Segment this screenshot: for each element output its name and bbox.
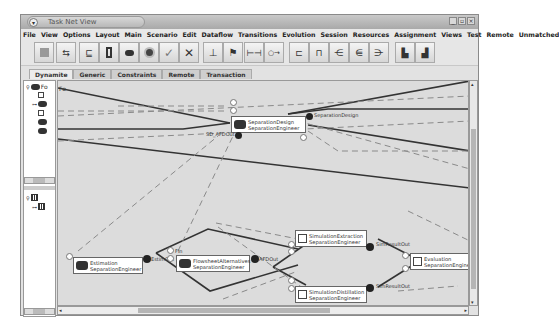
tree-item[interactable] (38, 110, 44, 116)
menu-file[interactable]: File (23, 31, 36, 38)
fanout-icon: ⋺ (375, 48, 384, 58)
export-button[interactable]: ▙ (395, 42, 415, 63)
node-evaluation[interactable]: Evaluation SeparationEngineer (410, 253, 469, 270)
tab-constraints[interactable]: Constraints (111, 69, 162, 79)
document-icon (106, 47, 112, 58)
canvas-vertical-scrollbar[interactable]: ▴ ▾ (469, 80, 478, 306)
output-port[interactable] (306, 113, 313, 120)
node-label: SeparationDesign SeparationEngineer (248, 119, 299, 131)
menu-options[interactable]: Options (63, 31, 91, 38)
scroll-left-icon[interactable]: ◂ (59, 307, 62, 313)
branch-button[interactable]: ⋹ (349, 42, 369, 63)
input-port[interactable] (288, 248, 295, 255)
input-port[interactable] (167, 247, 174, 254)
square-icon (40, 48, 49, 57)
scroll-down-icon[interactable]: ▾ (471, 299, 474, 305)
input-port[interactable] (66, 253, 73, 260)
stop-button[interactable] (34, 42, 54, 63)
node-separation-design[interactable]: SeparationDesign SeparationEngineer (231, 116, 306, 133)
port-label-afdout: AFDOut (259, 256, 278, 262)
tab-remote[interactable]: Remote (162, 69, 200, 79)
link-button[interactable]: ⊢⊣ (244, 42, 264, 63)
scroll-up-icon[interactable]: ▴ (471, 81, 474, 87)
tree-item[interactable] (38, 119, 47, 125)
title-bar[interactable]: ▾ Task Net View _ ▫ × (21, 15, 478, 29)
merge-button[interactable]: ⋲ (329, 42, 349, 63)
canvas-horizontal-scrollbar[interactable]: ◂ ▸ (57, 306, 469, 315)
scroll-right-icon[interactable]: ▸ (464, 307, 467, 313)
dataflow-button[interactable]: ○→ (264, 42, 284, 63)
tree-horizontal-scrollbar-2[interactable] (24, 308, 55, 315)
tree-item[interactable]: ⊶ (32, 101, 47, 107)
menu-remote[interactable]: Remote (486, 31, 513, 38)
output-port[interactable] (366, 284, 374, 292)
accept-button[interactable]: ✓ (159, 42, 179, 63)
menu-session[interactable]: Session (321, 31, 348, 38)
menu-main[interactable]: Main (125, 31, 142, 38)
input-port[interactable] (230, 107, 237, 114)
menu-layout[interactable]: Layout (96, 31, 120, 38)
input-port[interactable] (288, 285, 295, 292)
menu-test[interactable]: Test (467, 31, 482, 38)
output-port[interactable] (366, 243, 374, 251)
workflow-button[interactable]: ⇆ (56, 42, 76, 63)
output-port[interactable] (235, 132, 242, 139)
tree-item[interactable] (38, 128, 47, 134)
tree-root[interactable]: ♀ Fo (26, 83, 48, 90)
close-button[interactable]: × (467, 17, 475, 25)
menu-resources[interactable]: Resources (353, 31, 390, 38)
fanout-button[interactable]: ⋺ (369, 42, 389, 63)
tree-item[interactable] (38, 92, 44, 98)
scroll-thumb[interactable] (138, 308, 330, 313)
task-button[interactable]: ⊑ (79, 42, 99, 63)
record-button[interactable] (139, 42, 159, 63)
input-port[interactable] (402, 265, 409, 272)
menu-dataflow[interactable]: Dataflow (202, 31, 234, 38)
input-port[interactable] (300, 134, 307, 141)
tree-root-2[interactable]: ♀ (26, 194, 38, 201)
tree-horizontal-scrollbar[interactable] (24, 177, 55, 184)
menu-edit[interactable]: Edit (183, 31, 197, 38)
output-port[interactable] (143, 255, 151, 263)
output-port[interactable] (251, 255, 259, 263)
window-menu-icon[interactable]: ▾ (29, 18, 38, 27)
document-button[interactable] (99, 42, 119, 63)
menu-view[interactable]: View (41, 31, 58, 38)
reject-button[interactable]: ✕ (179, 42, 199, 63)
tab-transaction[interactable]: Transaction (200, 69, 251, 79)
expand-icon: ⊶ (32, 101, 37, 107)
menu-assignment[interactable]: Assignment (394, 31, 436, 38)
expand-icon[interactable]: ♀ (26, 195, 30, 201)
node-estimation[interactable]: Estimation SeparationEngineer (73, 257, 143, 274)
split-button[interactable]: ⊏ (289, 42, 309, 63)
port-label-fin: FIn (175, 248, 183, 254)
agents-button[interactable] (119, 42, 139, 63)
join-button[interactable]: ⊓ (309, 42, 329, 63)
node-simulation-distillation[interactable]: SimulationDistillation SeparationEnginee… (295, 286, 367, 303)
menu-unmatched[interactable]: Unmatched (519, 31, 559, 38)
input-port[interactable] (288, 277, 295, 284)
task-net-canvas[interactable]: Fo SeparationDesign SeparationEngineer S… (57, 80, 469, 306)
node-flowsheet-alternatives[interactable]: FlowsheetAlternatives SeparationEngineer (176, 255, 250, 272)
panel-splitter[interactable] (24, 186, 55, 190)
connect-vertical-button[interactable]: ⊥ (203, 42, 223, 63)
menu-scenario[interactable]: Scenario (147, 31, 178, 38)
input-port[interactable] (230, 99, 237, 106)
attach-button[interactable]: ⚑ (223, 42, 243, 63)
maximize-button[interactable]: ▫ (458, 17, 466, 25)
tree-item[interactable]: ⊶ (32, 203, 45, 210)
import-button[interactable]: ▟ (415, 42, 435, 63)
tab-dynamite[interactable]: Dynamite (29, 69, 73, 79)
minimize-button[interactable]: _ (449, 17, 457, 25)
input-port[interactable] (402, 252, 409, 259)
port-label-sim-result-out-1: SimResultOut (376, 241, 410, 247)
node-simulation-extraction[interactable]: SimulationExtraction SeparationEngineer (295, 230, 367, 247)
scroll-thumb[interactable] (471, 129, 476, 289)
tab-generic[interactable]: Generic (73, 69, 111, 79)
menu-views[interactable]: Views (441, 31, 462, 38)
expand-icon[interactable]: ♀ (26, 84, 30, 90)
input-port[interactable] (288, 241, 295, 248)
input-port[interactable] (167, 255, 174, 262)
menu-evolution[interactable]: Evolution (282, 31, 315, 38)
menu-transitions[interactable]: Transitions (238, 31, 277, 38)
